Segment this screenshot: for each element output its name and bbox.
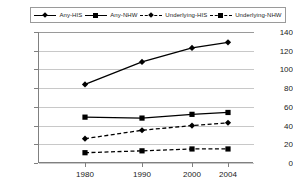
legend-item-any-nhw: Any-NHW xyxy=(85,11,137,20)
x-tick-label: 1990 xyxy=(133,170,151,179)
y-tick-label: 120 xyxy=(261,46,293,55)
legend-key-diamond-dashed-icon xyxy=(140,11,162,20)
legend-key-square-solid-icon xyxy=(85,11,107,20)
x-tick-label: 2004 xyxy=(219,170,237,179)
x-tick-mark xyxy=(142,163,143,167)
gridline xyxy=(39,107,254,108)
y-tick-mark xyxy=(34,163,38,164)
chart-legend: Any-HIS Any-NHW Underlying-HIS Underlyin… xyxy=(30,7,286,23)
legend-label-any-nhw: Any-NHW xyxy=(110,12,137,18)
gridline xyxy=(39,32,254,33)
legend-label-any-his: Any-HIS xyxy=(59,12,82,18)
legend-item-any-his: Any-HIS xyxy=(34,11,82,20)
y-tick-label: 60 xyxy=(261,102,293,111)
gridline xyxy=(39,51,254,52)
x-tick-label: 2000 xyxy=(183,170,201,179)
x-tick-label: 1980 xyxy=(76,170,94,179)
legend-key-diamond-solid-icon xyxy=(34,11,56,20)
y-tick-mark xyxy=(34,88,38,89)
y-tick-label: 20 xyxy=(261,140,293,149)
x-tick-mark xyxy=(228,163,229,167)
gridline xyxy=(39,144,254,145)
legend-key-square-dashed-icon xyxy=(210,11,232,20)
gridline xyxy=(39,163,254,164)
y-tick-label: 0 xyxy=(261,159,293,168)
x-tick-mark xyxy=(192,163,193,167)
y-tick-mark xyxy=(34,126,38,127)
y-tick-label: 140 xyxy=(261,28,293,37)
y-tick-mark xyxy=(34,107,38,108)
y-tick-label: 40 xyxy=(261,121,293,130)
legend-label-underlying-his: Underlying-HIS xyxy=(165,12,207,18)
gridline xyxy=(39,88,254,89)
plot-area xyxy=(38,32,253,163)
legend-item-underlying-his: Underlying-HIS xyxy=(140,11,207,20)
y-tick-label: 100 xyxy=(261,65,293,74)
gridline xyxy=(39,126,254,127)
gridline xyxy=(39,69,254,70)
line-chart: Any-HIS Any-NHW Underlying-HIS Underlyin… xyxy=(0,0,293,196)
y-tick-mark xyxy=(34,69,38,70)
y-tick-label: 80 xyxy=(261,84,293,93)
y-tick-mark xyxy=(34,51,38,52)
legend-label-underlying-nhw: Underlying-NHW xyxy=(235,12,281,18)
x-tick-mark xyxy=(85,163,86,167)
legend-item-underlying-nhw: Underlying-NHW xyxy=(210,11,281,20)
y-tick-mark xyxy=(34,144,38,145)
y-tick-mark xyxy=(34,32,38,33)
